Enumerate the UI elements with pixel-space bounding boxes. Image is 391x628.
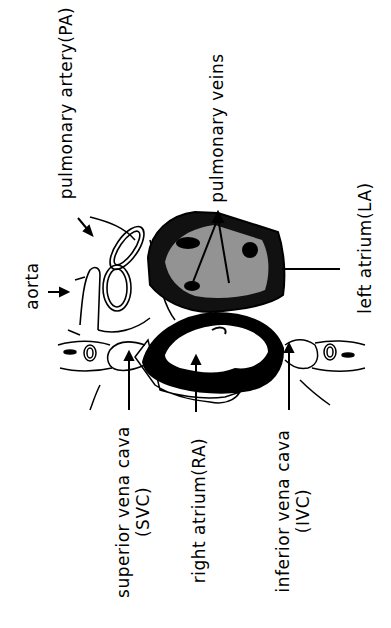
ivc-line-2: (IVC) bbox=[293, 420, 313, 602]
label-pulmonary-veins: pulmonary veins bbox=[207, 50, 227, 206]
svc-line-1: superior vena cava bbox=[113, 422, 133, 602]
label-superior-vena-cava: superior vena cava (SVC) bbox=[113, 422, 153, 602]
label-pulmonary-artery: pulmonary artery(PA) bbox=[56, 0, 76, 206]
left-atrium-shape bbox=[148, 212, 284, 312]
pulmonary-artery-arrow bbox=[78, 218, 92, 235]
svc-line-2: (SVC) bbox=[133, 422, 153, 602]
aorta-arrow bbox=[48, 288, 68, 296]
label-inferior-vena-cava: inferior vena cava (IVC) bbox=[273, 420, 313, 602]
right-atrium-shape bbox=[135, 313, 283, 403]
ivc-line-1: inferior vena cava bbox=[273, 420, 293, 602]
label-left-atrium: left atrium(LA) bbox=[355, 148, 375, 348]
label-right-atrium: right atrium(RA) bbox=[189, 428, 209, 593]
label-aorta: aorta bbox=[22, 250, 42, 322]
